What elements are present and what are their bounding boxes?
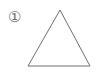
figure-canvas: ① [0,0,98,72]
figure-drawing [0,0,98,72]
triangle-shape [28,10,90,66]
